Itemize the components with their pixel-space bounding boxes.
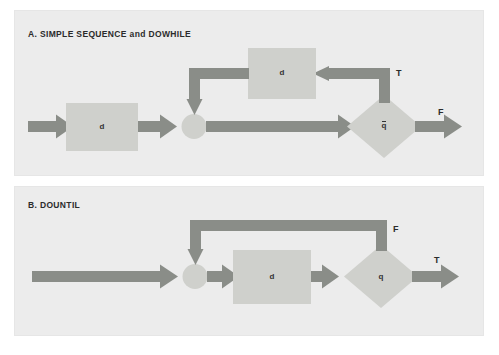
panel-a-title: A. SIMPLE SEQUENCE and DOWHILE [28, 29, 191, 39]
decision-diamond-qbar-text: q [382, 121, 387, 130]
decision-diamond-qbar-label: q [368, 121, 400, 130]
branch-label-false-a: F [438, 107, 444, 117]
process-box-d-left-label: d [86, 122, 118, 131]
process-box-d-top-label: d [266, 68, 298, 77]
branch-label-true-a: T [396, 68, 402, 78]
process-box-d-b-label: d [256, 272, 288, 281]
decision-diamond-q-b-label: q [365, 272, 397, 281]
branch-label-false-b: F [393, 224, 399, 234]
panel-dountil [14, 186, 484, 336]
flowchart-figure: A. SIMPLE SEQUENCE and DOWHILE B. DOUNTI… [0, 0, 499, 355]
panel-b-title: B. DOUNTIL [28, 200, 80, 210]
branch-label-true-b: T [434, 255, 440, 265]
